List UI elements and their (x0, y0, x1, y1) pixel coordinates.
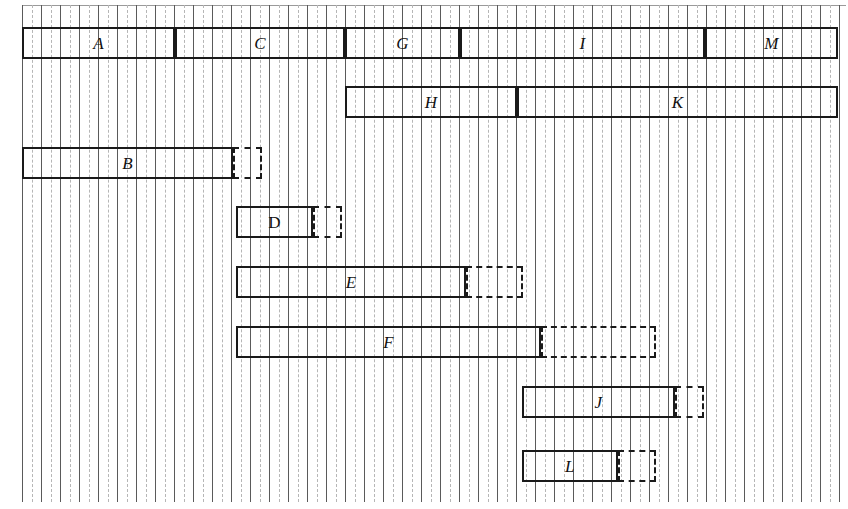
slack-bar-f[interactable] (541, 326, 656, 358)
slack-bar-d[interactable] (313, 206, 342, 238)
slack-bar-j[interactable] (675, 386, 704, 418)
task-bar-g[interactable]: G (345, 27, 460, 59)
task-bar-i[interactable]: I (460, 27, 705, 59)
task-label-b: B (122, 155, 133, 172)
task-bar-m[interactable]: M (705, 27, 838, 59)
task-label-f: F (383, 334, 394, 351)
task-label-h: H (425, 94, 438, 111)
task-label-k: K (672, 94, 684, 111)
task-label-i: I (580, 35, 586, 52)
task-bar-j[interactable]: J (522, 386, 675, 418)
task-bar-e[interactable]: E (236, 266, 466, 298)
task-bar-c[interactable]: C (175, 27, 345, 59)
task-label-a: A (93, 35, 104, 52)
bars-layer: ACGIMHKBDEFJL (0, 0, 848, 509)
task-label-g: G (396, 35, 409, 52)
task-label-j: J (595, 394, 603, 411)
task-bar-d[interactable]: D (236, 206, 313, 238)
task-bar-f[interactable]: F (236, 326, 541, 358)
task-bar-b[interactable]: B (22, 147, 233, 179)
task-bar-k[interactable]: K (517, 86, 838, 118)
task-bar-l[interactable]: L (522, 450, 618, 482)
slack-bar-l[interactable] (618, 450, 656, 482)
task-label-m: M (764, 35, 778, 52)
gantt-chart: ACGIMHKBDEFJL (0, 0, 848, 509)
slack-bar-e[interactable] (466, 266, 523, 298)
task-label-e: E (346, 274, 357, 291)
task-label-c: C (254, 35, 266, 52)
task-label-d: D (268, 214, 281, 231)
task-bar-a[interactable]: A (22, 27, 175, 59)
task-label-l: L (565, 458, 575, 475)
task-bar-h[interactable]: H (345, 86, 517, 118)
slack-bar-b[interactable] (233, 147, 262, 179)
